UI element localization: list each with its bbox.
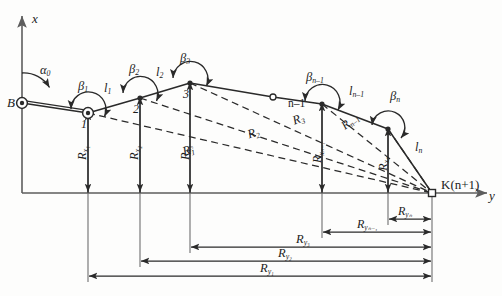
beta-sub: n [396,95,400,104]
axis-label-x: x [32,12,38,25]
l-sub: 2 [159,71,163,80]
beta-sub: 1 [84,85,88,94]
R-glyph: R [127,152,141,160]
R-glyph: R [278,246,286,260]
x-increment-label-Rx-n: Rxₙ [377,157,391,171]
R-glyph: R [296,232,304,246]
Rx-sub: xₙ [382,157,391,163]
figure-canvas: x y B 1 2 3 n–1 K(n+1) α0 β1 β2 β3 βn–1 … [0,0,502,296]
Ry-sub: yₙ [405,210,411,219]
station-label-1: 1 [81,118,87,130]
R-glyph: R [376,163,390,170]
Ry-sub: yₙ₋₁ [364,223,377,232]
marker-K [429,190,436,197]
l-sub: 1 [107,87,111,96]
l-sub: n [418,146,422,155]
beta-sub: 2 [135,68,139,77]
marker-B-inner [20,101,24,105]
marker-3 [187,80,192,85]
Rx-sub: x₃ [184,146,193,152]
x-increment-label-Rx-3: Rx₃ [179,146,193,160]
Rx-sub: xₙ₋₁ [317,143,326,156]
station-label-K: K(n+1) [441,178,479,191]
x-increment-label-Rx-n-1: Rxₙ₋₁ [311,143,325,163]
marker-2 [137,95,142,100]
Ry-sub: y₁ [268,267,274,276]
marker-n [385,126,390,131]
station-label-B: B [7,96,15,109]
y-increment-label-Ry-2: Ry₂ [278,247,292,261]
x-increment-label-Rx-2: Rx₂ [128,146,142,160]
Rx-sub: x₂ [133,146,142,152]
y-increment-label-Ry-1: Ry₁ [260,262,274,276]
marker-n-1 [319,101,324,106]
R-glyph: R [310,156,324,163]
marker-1-inner [86,111,90,115]
Ry-sub: y₃ [304,238,310,247]
marker-midpoint [270,94,276,100]
station-label-3: 3 [183,88,189,100]
angle-label-beta-n-1: βn–1 [306,71,324,85]
Rx-sub: x₁ [81,146,90,152]
alpha-sub: 0 [47,69,51,78]
y-increment-label-Ry-n-1: Ryₙ₋₁ [357,218,377,232]
beta-sub: 3 [186,57,190,66]
y-increment-label-Ry-n: Ryₙ [398,205,412,219]
angle-label-beta-3: β3 [180,52,190,66]
station-label-n-1: n–1 [288,98,305,110]
R-glyph: R [178,152,192,160]
x-increment-label-Rx-1: Rx₁ [76,146,90,160]
side-label-l-n-1: ln–1 [349,85,364,99]
Ry-sub: y₂ [286,252,292,261]
beta-sub: n–1 [312,76,324,85]
side-label-l-n: ln [415,141,422,155]
angle-label-beta-1: β1 [78,80,88,94]
side-label-l-1: l1 [104,82,111,96]
angle-label-beta-2: β2 [129,63,139,77]
R-glyph: R [260,261,268,275]
y-increment-label-Ry-3: Ry₃ [296,233,310,247]
angle-label-alpha-0: α0 [40,64,50,78]
angle-label-beta-n: βn [390,90,400,104]
l-sub: n–1 [352,90,364,99]
R-glyph: R [75,152,89,160]
axis-label-y: y [489,189,495,202]
x-increment-ordinates [88,82,388,193]
station-label-2: 2 [133,103,139,115]
side-label-l-2: l2 [156,66,163,80]
